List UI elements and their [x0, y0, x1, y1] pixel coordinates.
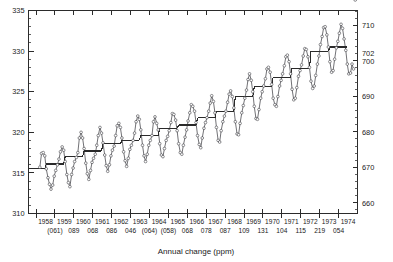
- data-point-marker: [278, 85, 281, 88]
- y-axis-right-tick-label: 690: [362, 92, 374, 101]
- data-point-marker: [38, 166, 41, 169]
- data-point-marker: [78, 137, 81, 140]
- data-point-marker: [277, 95, 280, 98]
- x-axis-year-label: 1972: [303, 218, 318, 225]
- data-point-marker: [86, 172, 89, 175]
- data-point-marker: [283, 64, 286, 67]
- x-axis-year-labels: 1958195919601961196219631964196519661967…: [38, 218, 356, 225]
- data-point-marker: [102, 142, 105, 145]
- annual-change-label: 115: [296, 227, 307, 234]
- data-point-marker: [327, 46, 330, 49]
- data-point-marker: [332, 69, 335, 72]
- data-point-marker: [308, 66, 311, 69]
- data-point-marker: [223, 115, 226, 118]
- data-point-marker: [338, 32, 341, 35]
- annual-mean-connector: [177, 125, 179, 128]
- x-axis-year-label: 1966: [189, 218, 204, 225]
- y-axis-right-labels: 660670680690700702710: [362, 21, 374, 207]
- data-point-marker: [272, 97, 275, 100]
- data-point-marker: [114, 134, 117, 137]
- data-point-marker: [163, 147, 166, 150]
- data-point-marker: [336, 40, 339, 43]
- data-point-marker: [333, 58, 336, 61]
- data-point-marker: [243, 97, 246, 100]
- data-point-marker: [209, 102, 212, 105]
- data-point-marker: [58, 158, 61, 161]
- data-point-marker: [187, 120, 190, 123]
- data-point-marker: [343, 38, 346, 41]
- data-point-marker: [344, 49, 347, 52]
- data-point-marker: [152, 120, 155, 123]
- x-axis-year-label: 1968: [227, 218, 242, 225]
- data-point-marker: [56, 163, 59, 166]
- data-point-marker: [157, 129, 160, 132]
- data-point-marker: [53, 175, 56, 178]
- data-point-marker: [125, 165, 128, 168]
- x-axis-year-label: 1970: [265, 218, 280, 225]
- data-point-marker: [188, 111, 191, 114]
- data-point-marker: [91, 161, 94, 164]
- data-point-marker: [139, 129, 142, 132]
- data-point-marker: [87, 178, 90, 181]
- y-axis-right-tick-label: 680: [362, 128, 374, 137]
- y-axis-left-tick-label: 330: [12, 47, 24, 56]
- data-point-marker: [280, 79, 283, 82]
- data-point-marker: [349, 72, 352, 75]
- data-point-marker: [129, 148, 132, 151]
- data-point-marker: [297, 75, 300, 78]
- data-point-marker: [288, 60, 291, 63]
- data-point-marker: [305, 48, 308, 51]
- data-point-marker: [324, 25, 327, 28]
- data-point-marker: [162, 155, 165, 158]
- data-point-marker: [232, 107, 235, 110]
- data-point-marker: [210, 94, 213, 97]
- y-axis-left-tick-label: 315: [12, 169, 24, 178]
- annual-change-labels: (061)089068086046(064)(058)0680780871091…: [47, 227, 344, 235]
- y-axis-right-tick-label: 702: [362, 49, 374, 58]
- data-point-marker: [240, 111, 243, 114]
- x-axis-year-label: 1973: [322, 218, 337, 225]
- annual-change-label: 068: [87, 227, 98, 234]
- y-axis-left-labels: 310315320325330335: [12, 6, 24, 218]
- data-point-marker: [147, 144, 150, 147]
- data-point-marker: [45, 167, 48, 170]
- data-point-marker: [48, 183, 51, 186]
- x-axis-year-label: 1960: [76, 218, 91, 225]
- annual-change-label: 086: [106, 227, 117, 234]
- data-point-marker: [127, 157, 130, 160]
- data-point-marker: [201, 137, 204, 140]
- data-point-marker: [136, 115, 139, 118]
- data-point-marker: [173, 113, 176, 116]
- data-point-marker: [95, 144, 98, 147]
- data-point-marker: [73, 160, 76, 163]
- annual-change-label: (058): [161, 227, 176, 235]
- data-point-marker: [94, 153, 97, 156]
- data-point-marker: [199, 146, 202, 149]
- data-point-marker: [248, 72, 251, 75]
- data-point-marker: [97, 134, 100, 137]
- data-point-marker: [228, 93, 231, 96]
- data-point-marker: [174, 119, 177, 122]
- x-axis-year-label: 1967: [208, 218, 223, 225]
- annual-change-label: (064): [142, 227, 157, 235]
- co2-concentration-chart: 310315320325330335 660670680690700702710…: [0, 0, 393, 262]
- data-point-marker: [64, 160, 67, 163]
- annual-mean-steps: [29, 47, 348, 169]
- data-point-marker: [47, 176, 50, 179]
- data-point-marker: [92, 157, 95, 160]
- data-point-marker: [237, 133, 240, 136]
- annual-mean-connector: [139, 136, 141, 141]
- data-point-marker: [250, 79, 253, 82]
- x-axis-year-label: 1963: [133, 218, 148, 225]
- data-point-marker: [286, 54, 289, 57]
- data-point-marker: [289, 72, 292, 75]
- data-point-marker: [66, 173, 69, 176]
- data-point-marker: [321, 35, 324, 38]
- data-point-marker: [83, 147, 86, 150]
- data-point-marker: [220, 129, 223, 132]
- data-point-marker: [89, 169, 92, 172]
- data-point-marker: [319, 43, 322, 46]
- data-point-marker: [256, 118, 259, 121]
- y-axis-right-tick-label: 660: [362, 199, 374, 208]
- data-point-markers: [38, 0, 356, 190]
